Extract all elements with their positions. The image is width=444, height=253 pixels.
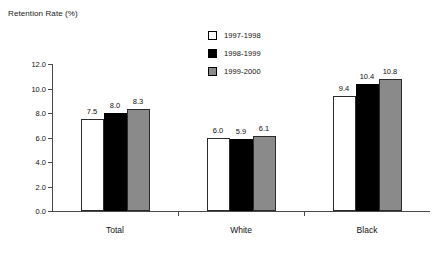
bar-value-label: 6.0 bbox=[213, 126, 223, 135]
y-axis-tick-mark bbox=[48, 89, 52, 90]
x-axis-line bbox=[52, 211, 430, 212]
bar-value-label: 7.5 bbox=[87, 107, 97, 116]
y-axis-tick-label: 6.0 bbox=[36, 133, 46, 142]
bar bbox=[333, 96, 356, 211]
y-axis-tick-label: 8.0 bbox=[36, 109, 46, 118]
bar-value-label: 6.1 bbox=[259, 124, 269, 133]
bar-value-label: 9.4 bbox=[339, 84, 349, 93]
y-axis-tick-label: 10.0 bbox=[31, 84, 46, 93]
legend-item-1998-1999: 1998-1999 bbox=[208, 47, 261, 60]
bar-value-label: 8.3 bbox=[133, 97, 143, 106]
category-label: Total bbox=[106, 225, 124, 235]
bar bbox=[104, 113, 127, 211]
bar-value-label: 5.9 bbox=[236, 127, 246, 136]
bar bbox=[356, 84, 379, 211]
bar bbox=[379, 79, 402, 211]
bar bbox=[230, 139, 253, 211]
bar bbox=[127, 109, 150, 211]
y-axis-tick-label: 4.0 bbox=[36, 158, 46, 167]
y-axis-line bbox=[52, 64, 53, 211]
bar bbox=[253, 136, 276, 211]
bar-value-label: 8.0 bbox=[110, 101, 120, 110]
retention-rate-bar-chart: Retention Rate (%) 1997-1998 1998-1999 1… bbox=[0, 0, 444, 253]
bar-value-label: 10.8 bbox=[383, 67, 398, 76]
y-axis-tick-mark bbox=[48, 162, 52, 163]
y-axis-tick-mark bbox=[48, 187, 52, 188]
y-axis-tick-mark bbox=[48, 64, 52, 65]
category-label: Black bbox=[357, 225, 378, 235]
plot-area: 0.02.04.06.08.010.012.0 7.58.08.36.05.96… bbox=[52, 64, 430, 211]
legend-label: 1997-1998 bbox=[224, 31, 261, 40]
legend-swatch-icon bbox=[208, 31, 217, 40]
y-axis-tick-label: 2.0 bbox=[36, 182, 46, 191]
bar-value-label: 10.4 bbox=[360, 72, 375, 81]
x-axis-group-separator bbox=[304, 211, 305, 216]
y-axis-tick-label: 12.0 bbox=[31, 60, 46, 69]
y-axis-tick-mark bbox=[48, 113, 52, 114]
y-axis-tick-mark bbox=[48, 211, 52, 212]
legend-label: 1998-1999 bbox=[224, 49, 261, 58]
legend-item-1997-1998: 1997-1998 bbox=[208, 29, 261, 42]
bar bbox=[207, 138, 230, 212]
bar bbox=[81, 119, 104, 211]
chart-title: Retention Rate (%) bbox=[8, 9, 78, 18]
category-label: White bbox=[230, 225, 252, 235]
legend-swatch-icon bbox=[208, 49, 217, 58]
x-axis-group-separator bbox=[178, 211, 179, 216]
y-axis-tick-mark bbox=[48, 138, 52, 139]
y-axis-tick-label: 0.0 bbox=[36, 207, 46, 216]
